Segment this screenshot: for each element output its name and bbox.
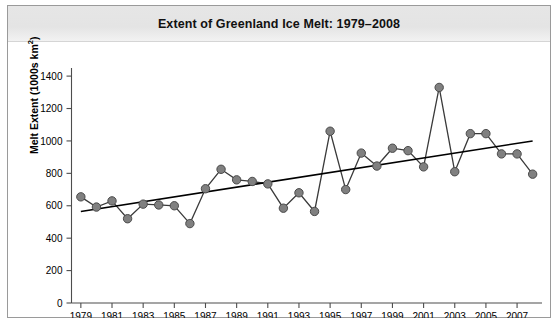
x-tick-label: 1979 (70, 311, 93, 318)
chart-svg: 0200400600800100012001400 19791981198319… (8, 42, 552, 318)
y-tick-label: 0 (57, 298, 63, 309)
y-tick-label: 1200 (40, 103, 63, 114)
figure-frame: Extent of Greenland Ice Melt: 1979–2008 … (7, 5, 551, 318)
data-point-marker (310, 207, 318, 215)
page-title: Extent of Greenland Ice Melt: 1979–2008 (158, 17, 400, 31)
x-tick-label: 1985 (163, 311, 186, 318)
data-point-marker (108, 197, 116, 205)
data-point-marker (528, 170, 536, 178)
y-tick-label: 1000 (40, 136, 63, 147)
x-tick-label: 1987 (194, 311, 217, 318)
x-tick-label: 1983 (132, 311, 155, 318)
data-point-marker (295, 189, 303, 197)
title-band: Extent of Greenland Ice Melt: 1979–2008 (8, 6, 550, 42)
data-point-marker (217, 165, 225, 173)
data-point-marker (497, 150, 505, 158)
data-series-line (81, 87, 533, 223)
x-tick-label: 2007 (506, 311, 529, 318)
data-point-marker (466, 129, 474, 137)
x-tick-label: 1989 (226, 311, 249, 318)
x-tick-label: 1995 (319, 311, 342, 318)
data-point-marker (388, 144, 396, 152)
data-point-marker (513, 150, 521, 158)
data-point-marker (404, 146, 412, 154)
y-tick-label: 1400 (40, 71, 63, 82)
data-point-marker (201, 185, 209, 193)
data-point-marker (186, 219, 194, 227)
x-tick-label: 2001 (412, 311, 435, 318)
x-tick-label: 1997 (350, 311, 373, 318)
plot-area: Melt Extent (1000s km2) 0200400600800100… (8, 42, 550, 317)
data-point-marker (248, 177, 256, 185)
data-point-marker (342, 185, 350, 193)
data-point-marker (77, 193, 85, 201)
data-point-marker (279, 204, 287, 212)
linear-trend-line (81, 141, 533, 212)
axes (72, 68, 543, 303)
x-tick-label: 1993 (288, 311, 311, 318)
data-point-marker (451, 168, 459, 176)
x-tick-label: 1999 (381, 311, 404, 318)
data-point-marker (435, 83, 443, 91)
trend-line-group (81, 141, 533, 212)
data-point-marker (326, 127, 334, 135)
data-point-marker (264, 180, 272, 188)
data-point-marker (357, 149, 365, 157)
x-axis-ticks: 1979198119831985198719891991199319951997… (70, 303, 529, 318)
y-tick-label: 600 (46, 200, 63, 211)
x-tick-label: 2003 (444, 311, 467, 318)
y-axis-ticks: 0200400600800100012001400 (40, 71, 71, 309)
data-point-markers (77, 83, 537, 228)
data-point-marker (123, 215, 131, 223)
data-point-marker (139, 200, 147, 208)
y-tick-label: 200 (46, 265, 63, 276)
x-tick-label: 1991 (257, 311, 280, 318)
chart-figure: Extent of Greenland Ice Melt: 1979–2008 … (0, 0, 557, 329)
x-tick-label: 1981 (101, 311, 124, 318)
data-point-marker (232, 176, 240, 184)
x-tick-label: 2005 (475, 311, 498, 318)
y-tick-label: 800 (46, 168, 63, 179)
data-point-marker (155, 201, 163, 209)
data-point-marker (482, 129, 490, 137)
melt-extent-line (81, 87, 533, 223)
data-point-marker (92, 203, 100, 211)
data-point-marker (373, 162, 381, 170)
data-point-marker (170, 202, 178, 210)
data-point-marker (419, 163, 427, 171)
y-tick-label: 400 (46, 233, 63, 244)
y-axis-label-paren: ) (28, 37, 40, 41)
